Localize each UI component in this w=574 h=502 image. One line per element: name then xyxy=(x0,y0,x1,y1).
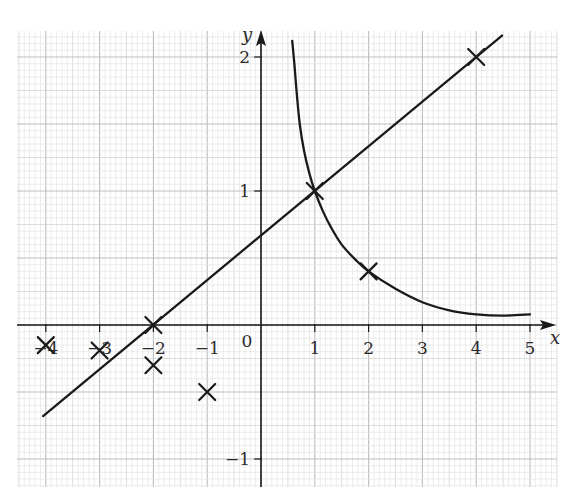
y-tick-label: −1 xyxy=(225,449,250,469)
x-tick-label: 1 xyxy=(309,338,320,358)
x-tick-label: −2 xyxy=(141,338,166,358)
origin-label: 0 xyxy=(242,331,253,351)
x-tick-label: −3 xyxy=(87,338,112,358)
x-axis-label: x xyxy=(550,327,560,348)
x-tick-label: −4 xyxy=(33,338,58,358)
x-tick-label: 2 xyxy=(363,338,374,358)
y-tick-label: 2 xyxy=(239,47,250,67)
x-tick-label: −1 xyxy=(195,338,220,358)
y-tick-label: 1 xyxy=(239,181,250,201)
y-axis-label: y xyxy=(241,24,253,45)
x-tick-label: 3 xyxy=(417,338,428,358)
chart-canvas: −4−3−2−112345−1120xy xyxy=(0,0,574,502)
graph-paper-grid xyxy=(17,31,557,487)
x-tick-label: 4 xyxy=(471,338,482,358)
x-tick-label: 5 xyxy=(525,338,536,358)
